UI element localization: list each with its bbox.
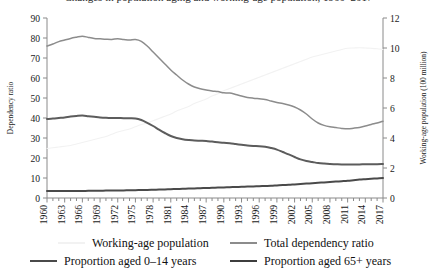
svg-text:90: 90 (30, 13, 40, 24)
legend-swatch-total-dependency-ratio (230, 242, 257, 244)
svg-text:0: 0 (35, 193, 40, 204)
svg-text:8: 8 (390, 73, 395, 84)
svg-text:1978: 1978 (144, 205, 155, 224)
svg-text:1975: 1975 (126, 205, 137, 224)
chart-legend: Working-age population Total dependency … (0, 234, 437, 270)
svg-text:1969: 1969 (91, 205, 102, 224)
legend-item-working-age-population: Working-age population (0, 237, 218, 249)
svg-text:10: 10 (390, 43, 400, 54)
svg-text:2014: 2014 (356, 205, 367, 224)
svg-text:2008: 2008 (321, 205, 332, 224)
svg-text:2002: 2002 (286, 205, 297, 224)
svg-text:1987: 1987 (197, 205, 208, 224)
svg-text:10: 10 (30, 173, 40, 184)
svg-text:1960: 1960 (38, 205, 49, 224)
legend-label-total-dependency-ratio: Total dependency ratio (264, 237, 374, 249)
legend-label-proportion-aged-65-plus: Proportion aged 65+ years (264, 255, 391, 267)
svg-text:6: 6 (390, 103, 395, 114)
legend-swatch-proportion-aged-0-14 (30, 260, 57, 262)
svg-text:1984: 1984 (179, 205, 190, 224)
chart-container: Changes in population aging and working-… (0, 0, 437, 273)
svg-text:80: 80 (30, 33, 40, 44)
svg-text:1993: 1993 (233, 205, 244, 224)
legend-item-total-dependency-ratio: Total dependency ratio (218, 237, 437, 249)
svg-text:40: 40 (30, 113, 40, 124)
legend-item-proportion-aged-65-plus: Proportion aged 65+ years (218, 255, 437, 267)
svg-text:1981: 1981 (162, 205, 173, 224)
svg-text:4: 4 (390, 133, 395, 144)
svg-text:1963: 1963 (56, 205, 67, 224)
legend-label-working-age-population: Working-age population (92, 237, 209, 249)
svg-text:12: 12 (390, 13, 400, 24)
svg-text:50: 50 (30, 93, 40, 104)
svg-text:1966: 1966 (73, 205, 84, 224)
svg-text:30: 30 (30, 133, 40, 144)
svg-text:2005: 2005 (303, 205, 314, 224)
svg-text:1996: 1996 (250, 205, 261, 224)
svg-text:1972: 1972 (109, 205, 120, 224)
line-chart-plot: 0102030405060708090024681012196019631966… (0, 0, 437, 240)
svg-text:Working-age population (100 mi: Working-age population (100 million) (419, 51, 428, 164)
legend-item-proportion-aged-0-14: Proportion aged 0–14 years (0, 255, 218, 267)
svg-text:1999: 1999 (268, 205, 279, 224)
svg-text:0: 0 (390, 193, 395, 204)
svg-text:1990: 1990 (215, 205, 226, 224)
svg-text:70: 70 (30, 53, 40, 64)
svg-text:2: 2 (390, 163, 395, 174)
legend-swatch-proportion-aged-65-plus (230, 260, 257, 262)
svg-text:2017: 2017 (374, 205, 385, 224)
svg-text:2011: 2011 (339, 205, 350, 224)
legend-row-2: Proportion aged 0–14 years Proportion ag… (0, 252, 437, 270)
svg-text:60: 60 (30, 73, 40, 84)
legend-label-proportion-aged-0-14: Proportion aged 0–14 years (64, 255, 196, 267)
legend-row-1: Working-age population Total dependency … (0, 234, 437, 252)
svg-text:20: 20 (30, 153, 40, 164)
legend-swatch-working-age-population (58, 242, 85, 244)
svg-text:Dependency ratio: Dependency ratio (6, 82, 15, 135)
